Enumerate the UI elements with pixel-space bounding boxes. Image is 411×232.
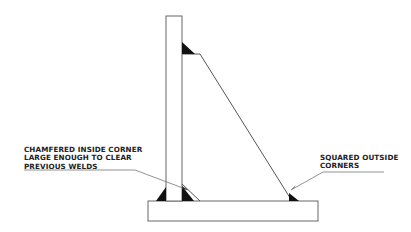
base-plate [148,201,318,221]
gusset-plate [182,54,292,201]
label-squared-outside-corners: SQUARED OUTSIDE CORNERS [320,154,398,171]
leader-right [291,172,384,190]
leader-left [24,170,188,190]
weld-top [182,42,195,54]
vertical-plate [166,16,182,201]
weld-gusset-toe [289,193,299,201]
weld-left-outside [156,187,166,201]
weld-diagram [0,0,411,232]
label-chamfered-inside-corner: CHAMFERED INSIDE CORNER LARGE ENOUGH TO … [24,146,142,171]
